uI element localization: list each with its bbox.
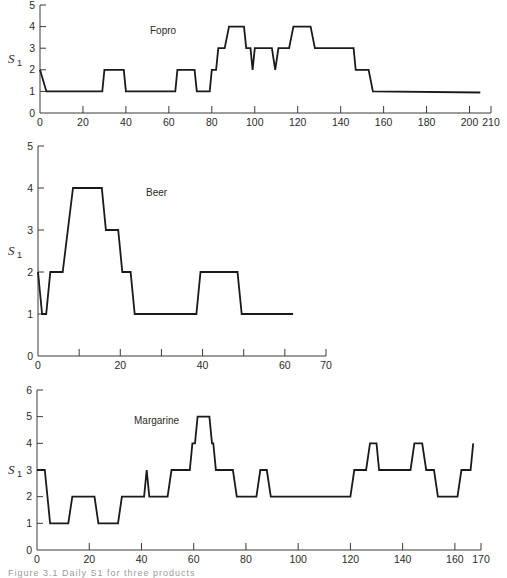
x-tick-label: 100	[289, 553, 307, 565]
y-axis-label: S	[8, 462, 15, 477]
figure-caption: Figure 3.1 Daily S1 for three products	[8, 568, 196, 578]
y-tick-label: 3	[27, 224, 33, 236]
y-tick-label: 6	[26, 384, 32, 396]
y-tick-label: 4	[29, 20, 35, 32]
y-tick-label: 5	[29, 0, 35, 11]
x-tick-label: 120	[342, 553, 360, 565]
x-tick-label: 20	[77, 116, 89, 128]
y-tick-label: 1	[26, 517, 32, 529]
x-tick-label: 100	[246, 116, 264, 128]
y-tick-label: 1	[29, 85, 35, 97]
x-tick-label: 180	[418, 116, 436, 128]
x-tick-label: 20	[114, 359, 126, 371]
x-tick-label: 40	[197, 359, 209, 371]
x-tick-label: 0	[35, 359, 41, 371]
y-tick-label: 4	[27, 182, 33, 194]
x-tick-label: 120	[289, 116, 307, 128]
y-axis-label-subscript: 1	[17, 469, 22, 479]
x-tick-label: 60	[188, 553, 200, 565]
series-label: Beer	[146, 187, 168, 198]
chart-margarine: 0123456020406080100120140160170S1Margari…	[8, 384, 490, 566]
y-axis-label-subscript: 1	[17, 58, 22, 68]
x-tick-label: 0	[37, 116, 43, 128]
x-tick-label: 210	[482, 116, 500, 128]
x-tick-label: 160	[446, 553, 464, 565]
series-line	[37, 417, 473, 524]
chart-fopro: 012345020406080100120140160180200210S1Fo…	[8, 0, 500, 128]
y-tick-label: 2	[26, 490, 32, 502]
x-tick-label: 60	[163, 116, 175, 128]
series-line	[40, 27, 480, 93]
x-tick-label: 40	[120, 116, 132, 128]
chart-beer: 012345020406070S1Beer	[8, 140, 332, 372]
y-axis-label: S	[8, 243, 15, 258]
x-tick-label: 170	[472, 553, 490, 565]
y-tick-label: 2	[27, 266, 33, 278]
x-tick-label: 60	[279, 359, 291, 371]
series-label: Fopro	[150, 25, 177, 36]
y-tick-label: 1	[27, 308, 33, 320]
x-tick-label: 80	[240, 553, 252, 565]
x-tick-label: 70	[320, 359, 332, 371]
x-tick-label: 140	[394, 553, 412, 565]
y-tick-label: 0	[29, 107, 35, 119]
y-tick-label: 2	[29, 63, 35, 75]
y-tick-label: 0	[26, 544, 32, 556]
y-tick-label: 3	[29, 42, 35, 54]
y-tick-label: 3	[26, 464, 32, 476]
y-axis-label-subscript: 1	[17, 250, 22, 260]
y-tick-label: 4	[26, 437, 32, 449]
x-tick-label: 140	[332, 116, 350, 128]
x-tick-label: 20	[83, 553, 95, 565]
x-tick-label: 200	[461, 116, 479, 128]
series-line	[38, 188, 293, 314]
y-tick-label: 5	[26, 410, 32, 422]
x-tick-label: 40	[136, 553, 148, 565]
x-tick-label: 80	[206, 116, 218, 128]
y-tick-label: 5	[27, 140, 33, 152]
y-axis-label: S	[8, 51, 15, 66]
x-tick-label: 0	[34, 553, 40, 565]
series-label: Margarine	[134, 415, 179, 426]
x-tick-label: 160	[375, 116, 393, 128]
y-tick-label: 0	[27, 350, 33, 362]
